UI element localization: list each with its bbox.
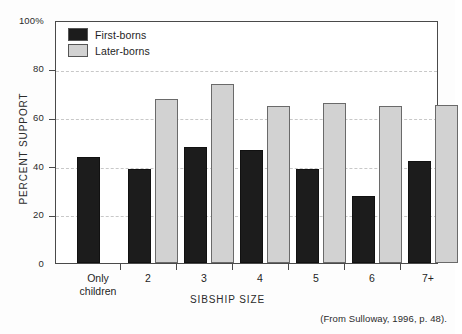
bar-later-borns-2 xyxy=(155,99,178,263)
x-tick-mark-1 xyxy=(120,264,121,270)
bar-later-borns-4 xyxy=(267,106,290,263)
x-tick-mark-5 xyxy=(344,264,345,270)
bar-group-only-children xyxy=(76,22,122,263)
x-tick-mark-2 xyxy=(176,264,177,270)
bar-first-borns-4 xyxy=(240,150,263,263)
bar-later-borns-6 xyxy=(379,106,402,263)
bar-group-7plus xyxy=(408,22,462,263)
source-note: (From Sulloway, 1996, p. 48). xyxy=(320,313,447,324)
bar-series-container xyxy=(56,22,437,263)
x-tick-label-7plus: 7+ xyxy=(388,272,462,285)
x-tick-mark-4 xyxy=(288,264,289,270)
y-tick-label-0: 0 xyxy=(4,258,44,269)
bar-first-borns-3 xyxy=(184,147,207,263)
bar-group-4 xyxy=(240,22,298,263)
bar-later-borns-7plus xyxy=(435,105,458,263)
y-tick-label-100: 100% xyxy=(4,15,44,26)
bar-later-borns-3 xyxy=(211,84,234,264)
bar-group-6 xyxy=(352,22,410,263)
bar-group-5 xyxy=(296,22,354,263)
x-axis-title: SIBSHIP SIZE xyxy=(0,294,455,305)
y-axis-title: PERCENT SUPPORT xyxy=(18,64,29,234)
bar-later-borns-5 xyxy=(323,103,346,263)
plot-area: First-borns Later-borns xyxy=(55,21,438,264)
x-tick-mark-3 xyxy=(232,264,233,270)
x-tick-mark-6 xyxy=(400,264,401,270)
bar-group-2 xyxy=(128,22,186,263)
bar-first-borns-only-children xyxy=(77,157,100,263)
bar-first-borns-7plus xyxy=(408,161,431,263)
bar-first-borns-5 xyxy=(296,169,319,263)
bar-first-borns-6 xyxy=(352,196,375,264)
bar-group-3 xyxy=(184,22,242,263)
bar-first-borns-2 xyxy=(128,169,151,263)
